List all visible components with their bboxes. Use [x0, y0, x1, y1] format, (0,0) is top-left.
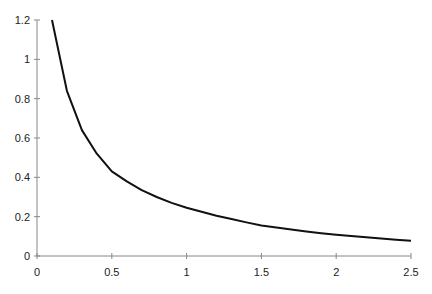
- series-layer: [52, 20, 411, 241]
- y-tick-label: 0.2: [15, 211, 30, 223]
- x-tick-label: 0: [34, 266, 40, 278]
- x-tick-label: 0.5: [104, 266, 119, 278]
- y-axis: 00.20.40.60.811.2: [15, 14, 40, 262]
- y-tick-label: 0: [24, 250, 30, 262]
- x-tick-label: 2: [333, 266, 339, 278]
- series-line: [52, 20, 411, 241]
- y-tick-label: 1: [24, 53, 30, 65]
- y-tick-label: 0.8: [15, 93, 30, 105]
- y-tick-label: 1.2: [15, 14, 30, 26]
- x-tick-label: 1.5: [254, 266, 269, 278]
- x-tick-label: 2.5: [403, 266, 418, 278]
- y-tick-label: 0.4: [15, 171, 30, 183]
- x-axis: 00.511.522.5: [34, 253, 419, 278]
- line-chart: 00.20.40.60.811.2 00.511.522.5: [0, 0, 432, 294]
- y-tick-label: 0.6: [15, 132, 30, 144]
- x-tick-label: 1: [184, 266, 190, 278]
